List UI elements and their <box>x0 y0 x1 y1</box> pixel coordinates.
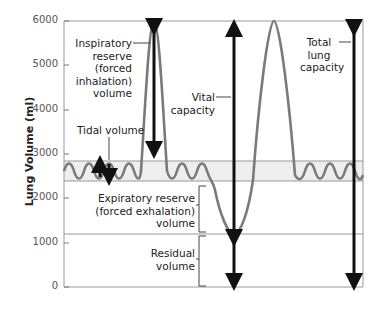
y-axis-label: Lung Volume (ml) <box>23 97 36 207</box>
label-line: reserve <box>70 50 132 63</box>
label-line: capacity <box>300 61 338 74</box>
label-line: Expiratory reserve <box>95 192 195 205</box>
label-line: inhalation) <box>70 75 132 88</box>
label-line: volume <box>140 260 195 273</box>
label-line: Total <box>300 36 338 49</box>
residual-volume-label: Residual volume <box>140 247 195 272</box>
y-ticks <box>64 21 69 287</box>
label-line: volume <box>70 87 132 100</box>
inspiratory-reserve-label: Inspiratory reserve (forced inhalation) … <box>70 37 132 100</box>
y-tick-5000: 5000 <box>18 58 58 69</box>
y-tick-0: 0 <box>18 280 58 291</box>
label-line: Residual <box>140 247 195 260</box>
lung-volume-diagram: 6000 5000 4000 3000 2000 1000 0 Lung Vol… <box>0 0 379 309</box>
label-line: volume <box>95 217 195 230</box>
vital-capacity-label: Vital capacity <box>170 91 215 116</box>
label-line: (forced <box>70 62 132 75</box>
total-lung-capacity-label: Total lung capacity <box>300 36 338 74</box>
label-line: capacity <box>170 104 215 117</box>
expiratory-reserve-label: Expiratory reserve (forced exhalation) v… <box>95 192 195 230</box>
y-tick-6000: 6000 <box>18 14 58 25</box>
label-line: lung <box>300 49 338 62</box>
label-line: (forced exhalation) <box>95 205 195 218</box>
label-line: Vital <box>170 91 215 104</box>
tidal-volume-label: Tidal volume <box>77 124 144 137</box>
label-line: Inspiratory <box>70 37 132 50</box>
y-tick-1000: 1000 <box>18 236 58 247</box>
